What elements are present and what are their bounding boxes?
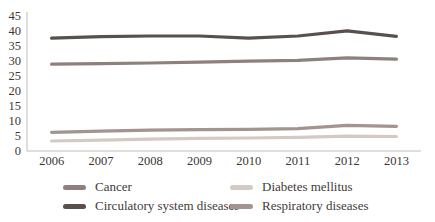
y-axis-tick-label: 5 xyxy=(15,129,21,143)
y-axis-tick-label: 35 xyxy=(9,39,22,53)
legend-swatch xyxy=(230,204,253,209)
legend-label: Circulatory system diseases xyxy=(95,199,239,213)
legend-label: Diabetes mellitus xyxy=(262,180,353,194)
y-axis-tick-label: 40 xyxy=(9,24,22,38)
y-axis-tick-label: 10 xyxy=(9,114,22,128)
legend: Cancer Diabetes mellitus Circulatory sys… xyxy=(63,180,369,213)
y-axis-tick-label: 45 xyxy=(9,9,22,23)
y-axis-tick-label: 15 xyxy=(9,99,22,113)
x-axis-tick-label: 2011 xyxy=(286,154,311,168)
chart: 0510152025303540452006200720082009201020… xyxy=(0,0,435,222)
y-axis-tick-label: 20 xyxy=(9,84,22,98)
x-axis-tick-label: 2008 xyxy=(138,154,163,168)
x-axis-tick-label: 2013 xyxy=(384,154,409,168)
x-axis-tick-label: 2007 xyxy=(88,154,113,168)
legend-label: Cancer xyxy=(95,180,132,194)
legend-item-circulatory: Circulatory system diseases xyxy=(63,199,230,213)
x-axis-tick-label: 2010 xyxy=(236,154,261,168)
legend-swatch xyxy=(230,185,253,190)
legend-item-diabetes: Diabetes mellitus xyxy=(230,180,369,194)
legend-swatch xyxy=(63,185,86,190)
line-chart-canvas: 0510152025303540452006200720082009201020… xyxy=(0,0,435,172)
legend-swatch xyxy=(63,204,86,209)
x-axis-tick-label: 2012 xyxy=(335,154,360,168)
legend-item-respiratory: Respiratory diseases xyxy=(230,199,369,213)
x-axis-tick-label: 2009 xyxy=(187,154,212,168)
y-axis-tick-label: 30 xyxy=(9,54,22,68)
series-line-diabetes-mellitus xyxy=(52,136,397,141)
series-line-cancer xyxy=(52,58,397,64)
x-axis-tick-label: 2006 xyxy=(39,154,64,168)
series-line-circulatory-system-diseases xyxy=(52,31,397,38)
y-axis-tick-label: 25 xyxy=(9,69,22,83)
y-axis-tick-label: 0 xyxy=(15,144,21,158)
legend-item-cancer: Cancer xyxy=(63,180,230,194)
series-line-respiratory-diseases xyxy=(52,125,397,132)
legend-label: Respiratory diseases xyxy=(262,199,369,213)
